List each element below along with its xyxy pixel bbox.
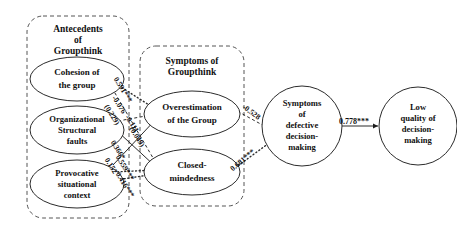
node-defective-label: decision- <box>286 131 319 141</box>
node-cohesion-label: the group <box>58 80 95 90</box>
group-title-line: of <box>74 35 83 45</box>
coef-organizational-overestimation-se: (0.049) <box>127 125 147 149</box>
node-defective-label: defective <box>286 120 319 130</box>
node-defective-label: Symptoms <box>283 98 322 108</box>
node-lowquality-label: quality of <box>400 113 435 123</box>
node-defective-label: of <box>298 109 305 119</box>
group-title-line: Groupthink <box>168 67 217 77</box>
diagram-svg: Antecedents of Groupthink Symptoms of Gr… <box>0 0 457 233</box>
node-organizational-label: Organizational <box>49 114 105 124</box>
diagram-canvas: Antecedents of Groupthink Symptoms of Gr… <box>0 0 457 233</box>
node-lowquality-label: Low <box>410 102 427 112</box>
node-closed-shape <box>144 149 240 195</box>
node-provocative-label: Provocative <box>55 168 98 178</box>
node-provocative-label: context <box>64 190 91 200</box>
group-title-line: Groupthink <box>54 46 103 56</box>
node-overestimation-label: of the Group <box>167 115 216 125</box>
node-defective-label: making <box>288 142 316 152</box>
node-lowquality[interactable]: Low quality of decision- making <box>379 87 457 165</box>
node-organizational-label: faults <box>67 136 88 146</box>
node-overestimation-label: Overestimation <box>162 102 221 112</box>
node-overestimation[interactable]: Overestimation of the Group <box>144 91 240 137</box>
coef-defective-lowquality: 0.778*** <box>339 117 369 126</box>
group-title-line: Symptoms of <box>165 56 219 66</box>
group-title-symptoms: Symptoms of Groupthink <box>165 56 219 77</box>
node-closed-label: mindedness <box>169 173 215 183</box>
node-cohesion-shape <box>30 57 124 101</box>
node-closed-label: Closed- <box>178 160 207 170</box>
node-defective[interactable]: Symptoms of defective decision- making <box>262 86 342 166</box>
node-lowquality-label: making <box>404 135 432 145</box>
group-title-line: Antecedents <box>53 24 103 34</box>
node-lowquality-label: decision- <box>402 124 435 134</box>
node-provocative-label: situational <box>58 179 97 189</box>
node-overestimation-shape <box>144 91 240 137</box>
node-cohesion-label: Cohesion of <box>54 67 100 77</box>
node-closed[interactable]: Closed- mindedness <box>144 149 240 195</box>
group-title-antecedents: Antecedents of Groupthink <box>53 24 103 56</box>
node-cohesion[interactable]: Cohesion of the group <box>30 57 124 101</box>
node-organizational-label: Structural <box>58 125 97 135</box>
coef-overestimation-defective: -0.528 <box>241 102 263 121</box>
